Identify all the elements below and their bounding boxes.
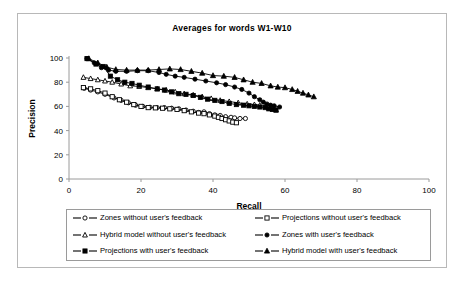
data-point-marker bbox=[173, 74, 177, 78]
data-point-marker bbox=[233, 85, 237, 89]
data-point-marker bbox=[234, 121, 238, 125]
y-tick-label: 20 bbox=[54, 151, 63, 160]
data-point-marker bbox=[177, 92, 181, 96]
data-point-marker bbox=[96, 89, 100, 93]
data-point-marker bbox=[81, 86, 85, 90]
data-point-marker bbox=[103, 78, 108, 83]
x-tick-label: 0 bbox=[67, 186, 72, 195]
data-point-marker bbox=[274, 108, 278, 112]
legend-item[interactable]: Zones without user's feedback bbox=[72, 213, 254, 223]
legend-marker-open-circle bbox=[72, 213, 98, 223]
legend-label: Projections with user's feedback bbox=[100, 247, 208, 255]
data-point-marker bbox=[170, 90, 174, 94]
axes: 020406080100020406080100 bbox=[50, 54, 437, 195]
data-point-marker bbox=[252, 95, 256, 99]
data-point-marker bbox=[103, 91, 107, 95]
legend-item[interactable]: Projections with user's feedback bbox=[72, 246, 254, 256]
data-point-marker bbox=[233, 116, 237, 120]
data-point-marker bbox=[191, 93, 195, 97]
x-tick-label: 100 bbox=[422, 186, 436, 195]
data-point-marker bbox=[81, 75, 86, 80]
data-point-marker bbox=[117, 98, 121, 102]
legend-marker-filled-triangle bbox=[254, 246, 280, 256]
x-tick-label: 20 bbox=[137, 186, 146, 195]
legend-item[interactable]: Projections without user's feedback bbox=[254, 213, 429, 223]
y-tick-label: 40 bbox=[54, 127, 63, 136]
y-axis-title: Precision bbox=[27, 99, 37, 137]
data-point-marker bbox=[242, 103, 246, 107]
legend-row: Projections with user's feedbackHybrid m… bbox=[67, 243, 430, 260]
legend-key bbox=[254, 230, 280, 240]
data-point-marker bbox=[175, 107, 179, 111]
data-point-marker bbox=[130, 81, 134, 85]
data-point-marker bbox=[146, 106, 150, 110]
data-point-marker bbox=[155, 87, 159, 91]
chart-screenshot: Averages for words W1-W10 02040608010002… bbox=[0, 0, 462, 287]
data-point-marker bbox=[184, 92, 188, 96]
data-point-marker bbox=[83, 232, 88, 237]
data-point-marker bbox=[265, 216, 269, 220]
data-point-marker bbox=[204, 79, 208, 83]
data-point-marker bbox=[83, 249, 87, 253]
data-point-marker bbox=[197, 111, 201, 115]
data-point-marker bbox=[125, 100, 129, 104]
data-point-marker bbox=[182, 109, 186, 113]
data-point-marker bbox=[110, 80, 115, 85]
legend-marker-open-triangle bbox=[72, 230, 98, 240]
x-tick-label: 80 bbox=[353, 186, 362, 195]
data-point-marker bbox=[189, 110, 193, 114]
y-tick-label: 100 bbox=[50, 54, 64, 63]
data-point-marker bbox=[224, 83, 228, 87]
data-point-marker bbox=[213, 98, 217, 102]
legend-marker-filled-circle bbox=[254, 230, 280, 240]
legend-item[interactable]: Zones with user's feedback bbox=[254, 230, 429, 240]
y-tick-label: 80 bbox=[54, 78, 63, 87]
legend-key bbox=[254, 213, 280, 223]
data-point-marker bbox=[164, 72, 168, 76]
data-point-marker bbox=[83, 216, 87, 220]
series-line bbox=[89, 59, 314, 97]
data-point-marker bbox=[182, 75, 186, 79]
legend-marker-filled-square bbox=[72, 246, 98, 256]
data-point-marker bbox=[110, 95, 114, 99]
data-point-marker bbox=[198, 95, 202, 99]
legend-label: Hybrid model without user's feedback bbox=[100, 231, 226, 239]
legend-marker-open-square bbox=[254, 213, 280, 223]
data-point-marker bbox=[202, 112, 206, 116]
data-point-marker bbox=[206, 97, 210, 101]
data-point-marker bbox=[215, 81, 219, 85]
data-point-marker bbox=[116, 78, 120, 82]
data-point-marker bbox=[247, 91, 251, 95]
legend-item[interactable]: Hybrid model without user's feedback bbox=[72, 230, 254, 240]
x-tick-label: 60 bbox=[281, 186, 290, 195]
data-point-marker bbox=[207, 113, 211, 117]
data-point-marker bbox=[193, 77, 197, 81]
data-point-marker bbox=[227, 101, 231, 105]
data-point-marker bbox=[238, 116, 242, 120]
y-tick-label: 0 bbox=[59, 175, 64, 184]
data-point-marker bbox=[240, 87, 244, 91]
data-point-marker bbox=[167, 66, 172, 71]
data-point-marker bbox=[264, 248, 269, 253]
y-tick-label: 60 bbox=[54, 102, 63, 111]
legend-label: Projections without user's feedback bbox=[282, 214, 401, 222]
data-point-marker bbox=[137, 83, 141, 87]
data-point-marker bbox=[258, 105, 262, 109]
data-point-marker bbox=[265, 233, 269, 237]
data-point-marker bbox=[234, 102, 238, 106]
chart-legend: Zones without user's feedbackProjections… bbox=[66, 209, 431, 261]
legend-item[interactable]: Hybrid model with user's feedback bbox=[254, 246, 429, 256]
legend-row: Zones without user's feedbackProjections… bbox=[67, 210, 430, 227]
chart-frame: Averages for words W1-W10 02040608010002… bbox=[17, 13, 447, 268]
legend-label: Zones with user's feedback bbox=[282, 231, 374, 239]
data-point-marker bbox=[220, 99, 224, 103]
data-point-marker bbox=[252, 104, 256, 108]
data-point-marker bbox=[243, 116, 247, 120]
data-point-marker bbox=[108, 74, 112, 78]
data-point-marker bbox=[153, 106, 157, 110]
data-point-marker bbox=[88, 76, 93, 81]
data-point-marker bbox=[89, 87, 93, 91]
data-point-marker bbox=[168, 107, 172, 111]
legend-row: Hybrid model without user's feedbackZone… bbox=[67, 227, 430, 244]
data-point-marker bbox=[161, 106, 165, 110]
